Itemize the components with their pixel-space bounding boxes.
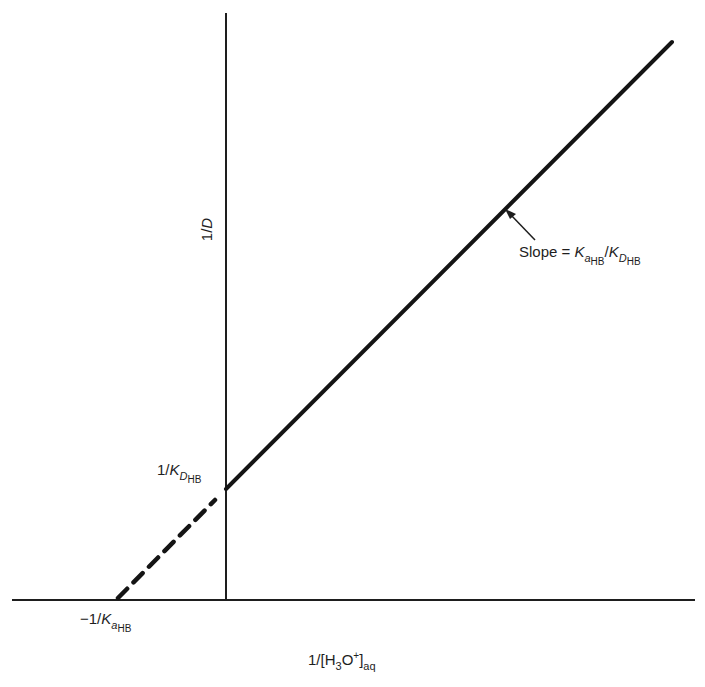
slope-label: Slope = KaHB/KDHB [519,244,641,259]
plot-area [0,0,705,687]
y-axis-label: 1/D [199,218,214,241]
extrapolated-dashed-line [118,500,215,598]
x-axis-label: 1/[H3O+]aq [308,652,376,667]
regression-line [226,42,672,489]
y-intercept-label: 1/KDHB [157,462,201,477]
slope-arrow [505,209,535,240]
x-intercept-label: −1/KaHB [80,611,131,626]
